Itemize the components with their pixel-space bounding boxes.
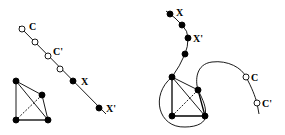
filled-vertex [182, 51, 188, 57]
right-upper-path [166, 11, 188, 77]
k4-vertex [13, 117, 19, 123]
label-c-prime: C' [262, 98, 272, 109]
label-c: C [29, 21, 36, 32]
open-vertex [57, 66, 63, 72]
label-x: X [176, 7, 184, 18]
filled-vertex [185, 35, 191, 41]
label-x-prime: X' [106, 103, 116, 114]
open-vertex [19, 26, 25, 32]
k4-vertex [13, 78, 19, 84]
open-vertex [243, 74, 249, 80]
diagram-canvas: C C' X X' X X' C C' [0, 0, 285, 135]
k4-vertex [45, 117, 51, 123]
right-nodes [167, 11, 260, 119]
left-panel [16, 26, 106, 120]
k4-vertex [169, 74, 175, 80]
right-outer-loop [159, 77, 205, 127]
label-c: C [251, 72, 258, 83]
label-c-prime: C' [53, 46, 63, 57]
k4-vertex [195, 87, 201, 93]
left-k4-graph [16, 81, 48, 120]
filled-vertex [179, 22, 185, 28]
right-panel [159, 11, 259, 127]
open-vertex [45, 53, 51, 59]
filled-vertex [96, 105, 102, 111]
label-x-prime: X' [193, 33, 203, 44]
filled-vertex [70, 78, 76, 84]
k4-vertex [169, 113, 175, 119]
label-x: X [81, 76, 89, 87]
k4-vertex [202, 113, 208, 119]
open-vertex [32, 39, 38, 45]
right-k4-graph [172, 77, 205, 116]
right-arc-path [197, 62, 259, 114]
k4-vertex [39, 92, 45, 98]
left-nodes [13, 26, 102, 123]
filled-vertex [167, 11, 173, 17]
open-vertex [254, 100, 260, 106]
